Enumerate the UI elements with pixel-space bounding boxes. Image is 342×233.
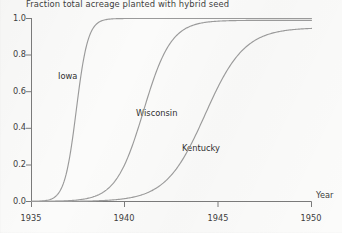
- curve-kentucky: [32, 28, 312, 201]
- chart-figure: Fraction total acreage planted with hybr…: [0, 0, 342, 233]
- y-axis-ticks: [26, 19, 31, 202]
- x-axis-ticks: [32, 202, 312, 208]
- plot-canvas: [0, 0, 342, 233]
- curve-iowa: [32, 19, 312, 202]
- data-curves: [32, 19, 312, 202]
- axis-lines: [31, 18, 312, 202]
